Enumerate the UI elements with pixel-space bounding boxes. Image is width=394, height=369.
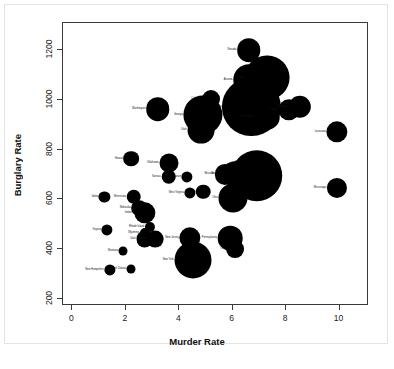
y-axis-title: Burglary Rate bbox=[10, 0, 24, 330]
data-point-label: Montana bbox=[108, 250, 118, 253]
y-axis-tick-label: 200 bbox=[44, 290, 54, 304]
data-point-label: Kansas bbox=[152, 175, 161, 178]
x-axis-tick-label: 6 bbox=[229, 313, 234, 323]
plot-panel: NevadaArizonaFloridaTexasCaliforniaColor… bbox=[62, 22, 368, 305]
x-axis-tick bbox=[71, 305, 72, 310]
data-bubble bbox=[326, 121, 347, 142]
data-point-label: Utah bbox=[130, 237, 135, 240]
bubble-chart-figure: Burglary Rate Murder Rate 02468102004006… bbox=[0, 0, 394, 369]
data-point-label: Georgia bbox=[174, 114, 183, 117]
data-point-label: Utah bbox=[181, 128, 186, 131]
data-point-label: Nevada bbox=[228, 49, 237, 52]
data-bubble bbox=[146, 98, 170, 122]
data-point-label: Hawaii bbox=[115, 157, 123, 160]
data-point-label: Missouri bbox=[204, 173, 214, 176]
data-bubble bbox=[104, 264, 115, 275]
y-axis-tick-label: 800 bbox=[44, 142, 54, 156]
data-bubble bbox=[134, 202, 155, 223]
data-point-label: Louisiana bbox=[315, 130, 326, 133]
data-bubble bbox=[99, 192, 110, 203]
data-point-label: Ohio bbox=[212, 197, 217, 200]
y-axis-tick-label: 1200 bbox=[44, 40, 54, 59]
data-point-label: West Virginia bbox=[169, 192, 184, 195]
data-bubble bbox=[102, 224, 113, 235]
data-bubble bbox=[187, 116, 214, 143]
data-bubble bbox=[123, 151, 139, 167]
y-axis-title-text: Burglary Rate bbox=[12, 134, 23, 196]
data-bubble bbox=[288, 96, 310, 118]
y-axis-tick-label: 600 bbox=[44, 191, 54, 205]
data-point-label: Pennsylvania bbox=[202, 237, 217, 240]
x-axis-tick-label: 2 bbox=[122, 313, 127, 323]
data-point-label: New York bbox=[163, 259, 174, 262]
x-axis-tick bbox=[285, 305, 286, 310]
data-bubble bbox=[226, 240, 244, 258]
data-bubble bbox=[182, 171, 193, 182]
data-bubble bbox=[127, 264, 136, 273]
y-axis-tick-label: 1000 bbox=[44, 89, 54, 108]
data-bubble bbox=[196, 185, 211, 200]
data-point-label: Minnesota bbox=[114, 195, 126, 198]
data-bubble bbox=[147, 230, 164, 247]
data-bubble bbox=[174, 241, 211, 278]
data-point-label: Arizona bbox=[224, 78, 233, 81]
x-axis-tick-label: 10 bbox=[334, 313, 343, 323]
x-axis-tick-label: 0 bbox=[69, 313, 74, 323]
data-bubble bbox=[119, 246, 128, 255]
data-point-label: Virginia bbox=[92, 228, 101, 231]
x-axis-tick bbox=[178, 305, 179, 310]
data-point-label: New Jersey bbox=[165, 236, 179, 239]
x-axis-tick-label: 8 bbox=[283, 313, 288, 323]
data-point-label: Nebraska bbox=[120, 207, 131, 210]
data-bubble bbox=[184, 188, 195, 199]
data-point-label: Washington bbox=[132, 108, 146, 111]
data-point-label: Idaho bbox=[92, 196, 99, 199]
data-point-label: Mississippi bbox=[314, 187, 327, 190]
x-axis-tick bbox=[339, 305, 340, 310]
x-axis-title: Murder Rate bbox=[0, 336, 394, 347]
data-point-label: New Hampshire bbox=[85, 268, 103, 271]
data-bubble bbox=[218, 184, 247, 213]
data-bubble bbox=[327, 178, 347, 198]
data-bubble bbox=[161, 169, 176, 184]
x-axis-tick-label: 4 bbox=[176, 313, 181, 323]
x-axis-tick bbox=[232, 305, 233, 310]
data-point-label: Oklahoma bbox=[147, 161, 159, 164]
data-bubble bbox=[255, 105, 280, 130]
x-axis-tick bbox=[125, 305, 126, 310]
y-axis-tick-label: 400 bbox=[44, 241, 54, 255]
bubble-layer: NevadaArizonaFloridaTexasCaliforniaColor… bbox=[63, 23, 367, 304]
